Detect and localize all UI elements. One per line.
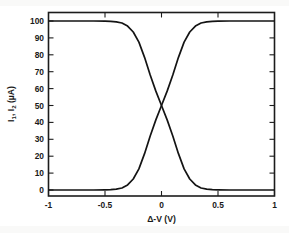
y-axis-title-units: (µA) bbox=[6, 86, 16, 105]
figure-canvas: 0 10 20 30 40 50 60 70 80 90 100 -1 -0.5… bbox=[0, 0, 289, 233]
y-axis-title: I1, I2 (µA) bbox=[6, 86, 17, 122]
y-tick-label: 100 bbox=[30, 16, 44, 26]
y-tick-label: 70 bbox=[35, 67, 45, 77]
y-tick-label: 0 bbox=[39, 185, 44, 195]
x-axis-title: Δ-V (V) bbox=[147, 214, 176, 224]
y-tick-label: 90 bbox=[35, 33, 45, 43]
x-tick-label: -0.5 bbox=[98, 200, 113, 210]
y-tick-label: 20 bbox=[35, 151, 45, 161]
y-tick-label: 40 bbox=[35, 117, 45, 127]
x-tick-label: 0 bbox=[159, 200, 164, 210]
svg-text:I1, I2 (µA): I1, I2 (µA) bbox=[6, 86, 17, 122]
y-tick-label: 80 bbox=[35, 50, 45, 60]
x-tick-labels: -1 -0.5 0 0.5 1 bbox=[45, 200, 277, 210]
data-line-i2 bbox=[49, 21, 275, 190]
x-tick-label: 1 bbox=[272, 200, 277, 210]
line-chart: 0 10 20 30 40 50 60 70 80 90 100 -1 -0.5… bbox=[0, 0, 289, 233]
y-tick-labels: 0 10 20 30 40 50 60 70 80 90 100 bbox=[30, 16, 44, 195]
x-tick-label: -1 bbox=[45, 200, 53, 210]
y-tick-label: 10 bbox=[35, 168, 45, 178]
y-tick-label: 30 bbox=[35, 134, 45, 144]
y-tick-label: 50 bbox=[35, 101, 45, 111]
y-tick-label: 60 bbox=[35, 84, 45, 94]
x-tick-label: 0.5 bbox=[212, 200, 224, 210]
